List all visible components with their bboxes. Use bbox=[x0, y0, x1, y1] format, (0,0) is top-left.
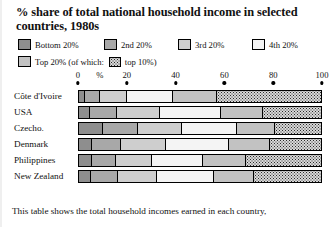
bar-segment-top-10 bbox=[274, 123, 321, 134]
4th-20-swatch-icon bbox=[252, 39, 265, 50]
chart-rows: Côte d'IvoireUSACzecho.DenmarkPhilippine… bbox=[6, 90, 325, 186]
bar-segment-top-20 bbox=[237, 123, 274, 134]
axis-tick-dot-0 bbox=[76, 81, 79, 84]
bar-segment-top-10 bbox=[253, 171, 321, 182]
legend-label-top-20: Top 20% (of which: bbox=[35, 57, 104, 67]
bar-segment bbox=[138, 123, 182, 134]
bar-segment-top-20 bbox=[203, 155, 244, 166]
legend: Bottom 20% 2nd 20% 3rd 20% 4th 20% Top 2… bbox=[18, 36, 325, 70]
legend-label-4th-20: 4th 20% bbox=[269, 40, 298, 50]
bar-segment bbox=[79, 155, 92, 166]
bar-segment bbox=[79, 107, 90, 118]
bar-segment-top-10 bbox=[269, 139, 321, 150]
top-10-swatch-icon bbox=[109, 57, 121, 67]
bar-segment-top-10 bbox=[245, 155, 321, 166]
legend-row-1: Bottom 20% 2nd 20% 3rd 20% 4th 20% bbox=[18, 36, 325, 53]
page-title: % share of total national household inco… bbox=[16, 6, 316, 33]
bar-segment bbox=[166, 139, 228, 150]
bar-segment-top-20 bbox=[229, 139, 269, 150]
bar-segment-top-10 bbox=[216, 91, 321, 102]
top-20-swatch-icon bbox=[18, 56, 31, 67]
axis-tick-label-20: 20 bbox=[123, 70, 132, 80]
row-label-philippines: Philippines bbox=[14, 155, 55, 165]
axis-tick-dot-60 bbox=[223, 81, 226, 84]
row-label-c-te-d-ivoire: Côte d'Ivoire bbox=[14, 91, 62, 101]
row-label-czecho: Czecho. bbox=[14, 123, 44, 133]
bar-segment bbox=[157, 171, 214, 182]
bar-segment bbox=[90, 107, 117, 118]
stacked-bar[interactable] bbox=[78, 90, 322, 103]
axis-percent-marker: % bbox=[96, 70, 103, 80]
bar-segment bbox=[85, 91, 100, 102]
axis-tick-label-80: 80 bbox=[269, 70, 278, 80]
bar-segment bbox=[103, 123, 138, 134]
chart-page: % share of total national household inco… bbox=[0, 0, 331, 227]
bar-segment bbox=[79, 123, 103, 134]
bar-segment bbox=[118, 171, 158, 182]
legend-item-3rd-20[interactable]: 3rd 20% bbox=[178, 39, 252, 50]
stacked-bar[interactable] bbox=[78, 122, 322, 135]
footer-note: This table shows the total household inc… bbox=[12, 206, 328, 217]
legend-item-top-10[interactable]: top 10%) bbox=[109, 57, 157, 67]
bar-segment-top-20 bbox=[221, 107, 262, 118]
axis-tick-label-40: 40 bbox=[171, 70, 180, 80]
bar-segment bbox=[79, 139, 92, 150]
legend-item-top-20[interactable]: Top 20% (of which: bbox=[18, 56, 104, 67]
3rd-20-swatch-icon bbox=[178, 39, 191, 50]
bar-segment bbox=[79, 171, 91, 182]
bar-segment bbox=[91, 171, 117, 182]
bar-segment-top-10 bbox=[262, 107, 321, 118]
legend-label-3rd-20: 3rd 20% bbox=[195, 40, 224, 50]
x-axis: 020406080100% bbox=[6, 70, 325, 90]
legend-label-2nd-20: 2nd 20% bbox=[121, 40, 152, 50]
axis-tick-label-100: 100 bbox=[316, 70, 329, 80]
chart-row: Côte d'Ivoire bbox=[6, 90, 325, 106]
stacked-bar[interactable] bbox=[78, 138, 322, 151]
bar-segment-top-20 bbox=[173, 91, 216, 102]
bar-segment bbox=[92, 155, 116, 166]
stacked-bar[interactable] bbox=[78, 154, 322, 167]
legend-item-4th-20[interactable]: 4th 20% bbox=[252, 39, 298, 50]
2nd-20-swatch-icon bbox=[104, 39, 117, 50]
axis-tick-dot-80 bbox=[271, 81, 274, 84]
axis-tick-dot-40 bbox=[174, 81, 177, 84]
row-label-new-zealand: New Zealand bbox=[14, 171, 63, 181]
legend-item-2nd-20[interactable]: 2nd 20% bbox=[104, 39, 178, 50]
bar-segment bbox=[100, 91, 127, 102]
bar-segment bbox=[116, 155, 152, 166]
stacked-bar[interactable] bbox=[78, 170, 322, 183]
chart-row: Philippines bbox=[6, 154, 325, 170]
bar-segment bbox=[160, 107, 221, 118]
bar-segment bbox=[92, 139, 121, 150]
footer-line-1: This table shows the total household inc… bbox=[12, 206, 328, 217]
legend-label-top-10: top 10%) bbox=[125, 57, 157, 67]
axis-tick-dot-100 bbox=[320, 81, 323, 84]
legend-item-bottom-20[interactable]: Bottom 20% bbox=[18, 39, 104, 50]
chart-row: New Zealand bbox=[6, 170, 325, 186]
bar-segment bbox=[121, 139, 166, 150]
bar-segment bbox=[127, 91, 174, 102]
bar-segment bbox=[152, 155, 203, 166]
left-edge-shade bbox=[0, 0, 2, 227]
bar-segment bbox=[117, 107, 159, 118]
chart-row: USA bbox=[6, 106, 325, 122]
row-label-usa: USA bbox=[14, 107, 32, 117]
bottom-20-swatch-icon bbox=[18, 39, 31, 50]
row-label-denmark: Denmark bbox=[14, 139, 48, 149]
stacked-bar[interactable] bbox=[78, 106, 322, 119]
legend-label-bottom-20: Bottom 20% bbox=[35, 40, 79, 50]
axis-tick-label-0: 0 bbox=[76, 70, 80, 80]
chart-row: Denmark bbox=[6, 138, 325, 154]
axis-tick-dot-20 bbox=[125, 81, 128, 84]
legend-row-2: Top 20% (of which: top 10%) bbox=[18, 53, 325, 70]
chart-row: Czecho. bbox=[6, 122, 325, 138]
bar-segment-top-20 bbox=[214, 171, 253, 182]
axis-tick-label-60: 60 bbox=[220, 70, 229, 80]
bar-segment bbox=[182, 123, 237, 134]
